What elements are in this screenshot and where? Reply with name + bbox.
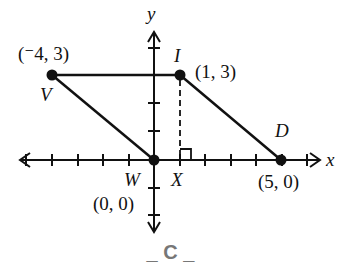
point-i-coords: (1, 3) <box>195 62 236 81</box>
point-i <box>175 70 186 81</box>
vertices <box>47 70 287 166</box>
y-axis <box>148 32 160 232</box>
point-i-label: I <box>174 46 180 65</box>
coordinate-diagram <box>0 0 341 269</box>
point-w <box>149 155 160 166</box>
point-d-coords: (5, 0) <box>258 172 299 191</box>
x-axis-label: x <box>326 150 334 169</box>
point-w-label: W <box>124 170 140 189</box>
point-d <box>276 155 287 166</box>
point-d-label: D <box>275 121 289 140</box>
point-v-label: V <box>40 85 52 104</box>
parallelogram <box>52 75 281 160</box>
point-w-coords: (0, 0) <box>93 194 134 213</box>
point-v <box>47 70 58 81</box>
point-v-coords: (⁻4, 3) <box>18 44 69 63</box>
point-x-label: X <box>171 170 183 189</box>
right-angle-marker <box>180 149 191 160</box>
figure-caption: _ C _ <box>0 241 341 264</box>
y-axis-label: y <box>147 4 155 23</box>
